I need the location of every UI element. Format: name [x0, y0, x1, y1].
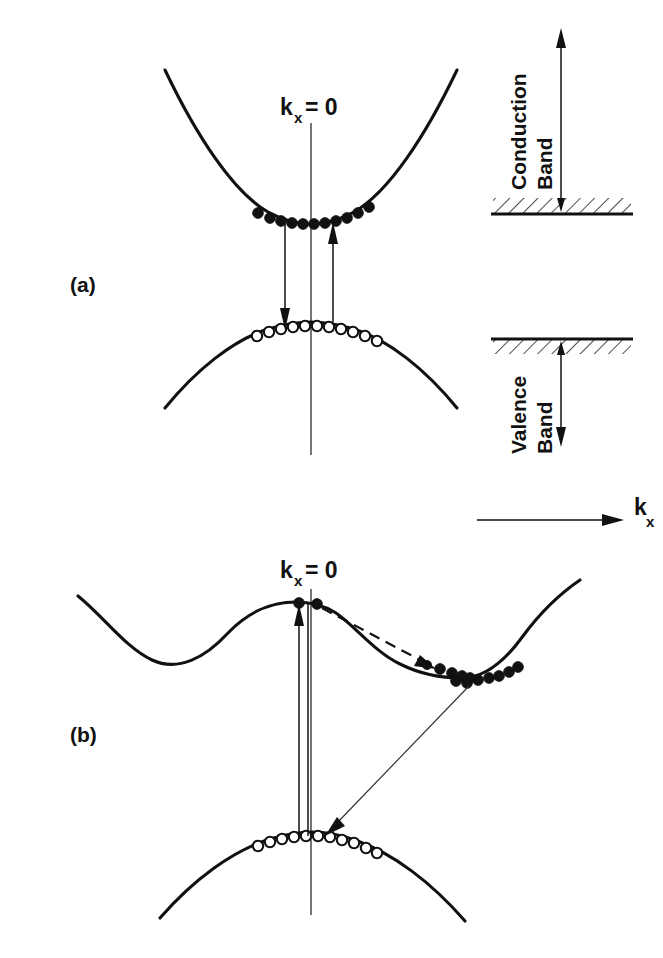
arrowhead-up	[556, 28, 566, 48]
panel-b-label: (b)	[70, 723, 97, 746]
panel-b-hole-group	[253, 831, 382, 858]
conduction-band-label-line1: Conduction	[507, 73, 530, 190]
hole-circle	[360, 331, 370, 341]
electron-dot	[265, 213, 276, 224]
electron-dot	[484, 673, 495, 684]
hole-circle	[301, 831, 311, 841]
electron-dot	[342, 213, 353, 224]
arrowhead-down	[556, 427, 566, 447]
hole-circle	[324, 322, 334, 332]
hole-circle	[312, 321, 322, 331]
panel-a-electron-group	[253, 202, 375, 230]
hole-circle	[300, 321, 310, 331]
electron-dot	[287, 218, 298, 229]
panel-b: k x = 0 (b)	[70, 557, 580, 921]
electron-dot	[320, 218, 331, 229]
electron-dot	[312, 599, 323, 610]
hole-circle	[348, 327, 358, 337]
electron-dot	[473, 675, 484, 686]
hole-circle	[337, 835, 347, 845]
panel-a-downward-transition-arrow	[280, 224, 290, 330]
hole-circle	[361, 843, 371, 853]
hole-circle	[349, 838, 359, 848]
panel-b-conduction-band-curve	[78, 580, 580, 678]
electron-dot	[253, 208, 264, 219]
electron-dot	[364, 202, 375, 213]
hole-circle	[253, 841, 263, 851]
band-edge-legend: Conduction Band Valence Band	[491, 28, 633, 454]
kx-label-k: k	[280, 94, 293, 120]
arrowhead-right	[602, 514, 624, 526]
conduction-band-arrow	[556, 28, 566, 212]
panel-b-upward-transition-arrow	[294, 604, 304, 836]
electron-dot	[331, 216, 342, 227]
figure-canvas: k x = 0 (a) Conduction Band	[0, 0, 663, 958]
valence-band-label-group: Valence Band	[507, 376, 556, 454]
kx-label-equals-zero: = 0	[305, 557, 338, 583]
electron-dot	[353, 208, 364, 219]
valence-band-label-line2: Band	[533, 402, 556, 455]
hole-circle	[265, 837, 275, 847]
hole-circle	[372, 848, 382, 858]
panel-a-label: (a)	[70, 273, 96, 296]
hole-circle	[252, 331, 262, 341]
hole-circle	[336, 324, 346, 334]
conduction-band-label-group: Conduction Band	[507, 73, 556, 190]
kx-label-k: k	[280, 557, 293, 583]
kx-label-equals-zero: = 0	[305, 94, 338, 120]
electron-dot	[435, 664, 446, 675]
band-structure-figure: k x = 0 (a) Conduction Band	[0, 0, 663, 958]
hole-circle	[288, 322, 298, 332]
hole-circle	[289, 832, 299, 842]
conduction-band-label-line2: Band	[533, 138, 556, 191]
kx-axis-arrow-group: k x	[477, 494, 655, 530]
arrowhead-dashed-end	[414, 655, 436, 669]
panel-b-indirect-recombination-arrow	[325, 686, 469, 836]
panel-a: k x = 0 (a)	[70, 70, 457, 455]
panel-b-valence-band-curve	[160, 832, 465, 921]
valence-band-arrow	[556, 341, 566, 447]
panel-b-kx-zero-label: k x = 0	[280, 557, 338, 589]
hole-circle	[264, 327, 274, 337]
electron-dot	[513, 662, 524, 673]
kx-label-subscript: x	[294, 109, 303, 126]
electron-dot	[309, 219, 320, 230]
panel-b-intervalley-dashed-arrow	[322, 608, 436, 669]
kx-label-subscript: x	[294, 572, 303, 589]
panel-a-upward-transition-arrow	[328, 222, 338, 322]
hole-circle	[313, 831, 323, 841]
kx-axis-label-subscript: x	[646, 513, 655, 530]
electron-dot	[451, 676, 462, 687]
panel-a-kx-zero-label: k x = 0	[280, 94, 338, 126]
panel-a-hole-group	[252, 321, 382, 346]
electron-dot	[462, 678, 473, 689]
electron-dot	[494, 671, 505, 682]
valence-band-label-line1: Valence	[507, 376, 530, 454]
hole-circle	[277, 834, 287, 844]
electron-dot	[298, 219, 309, 230]
panel-b-electron-group-satellite	[422, 660, 523, 688]
hole-circle	[372, 336, 382, 346]
